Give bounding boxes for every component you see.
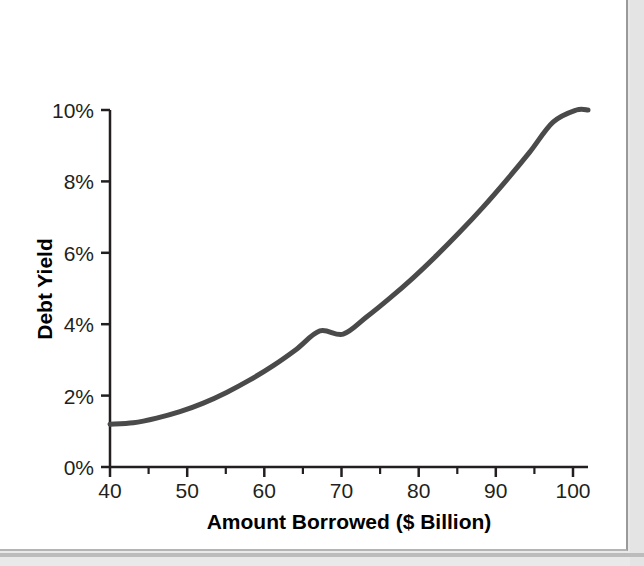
x-tick-label-100: 100 xyxy=(555,479,590,502)
plot-area: 10% 8% 6% 4% 2% 0% xyxy=(0,0,628,551)
y-tick-label-4: 4% xyxy=(64,313,94,336)
debt-yield-line-chart: 10% 8% 6% 4% 2% 0% xyxy=(0,0,628,551)
chart-figure-frame: 10% 8% 6% 4% 2% 0% xyxy=(0,0,628,551)
y-tick-label-2: 2% xyxy=(64,385,94,408)
debt-yield-curve xyxy=(110,109,588,424)
x-tick-label-50: 50 xyxy=(176,479,199,502)
y-tick-label-8: 8% xyxy=(64,170,94,193)
page-right-gutter xyxy=(630,0,644,566)
y-axis-tick-labels: 10% 8% 6% 4% 2% 0% xyxy=(52,99,94,479)
y-tick-label-10: 10% xyxy=(52,99,94,122)
y-tick-label-0: 0% xyxy=(64,456,94,479)
y-axis-ticks xyxy=(101,110,110,467)
x-tick-label-90: 90 xyxy=(484,479,507,502)
x-axis-major-ticks xyxy=(110,467,573,477)
page-bottom-shadow xyxy=(0,553,644,557)
y-tick-label-6: 6% xyxy=(64,242,94,265)
x-tick-label-80: 80 xyxy=(407,479,430,502)
x-tick-label-60: 60 xyxy=(253,479,276,502)
x-tick-label-40: 40 xyxy=(98,479,121,502)
x-axis-tick-labels: 40 50 60 70 80 90 100 xyxy=(98,479,590,502)
y-axis-title: Debt Yield xyxy=(33,238,56,340)
x-tick-label-70: 70 xyxy=(330,479,353,502)
x-axis-title: Amount Borrowed ($ Billion) xyxy=(207,510,492,533)
